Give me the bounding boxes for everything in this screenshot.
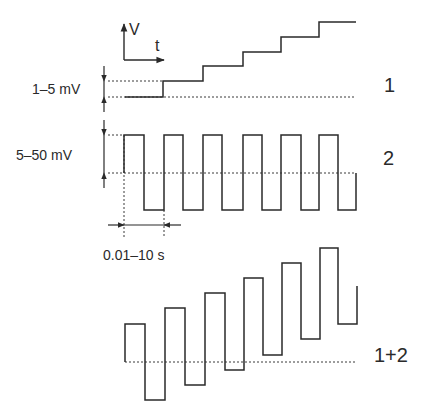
period-label: 0.01–10 s xyxy=(103,248,165,262)
signal-diagram xyxy=(0,0,434,412)
amplitude-label-1: 1–5 mV xyxy=(32,82,80,96)
axis-label-v: V xyxy=(129,22,140,38)
amplitude-label-2: 5–50 mV xyxy=(16,148,72,162)
sum-wave-trace xyxy=(125,248,357,400)
trace-label-1: 1 xyxy=(384,75,395,95)
trace-label-2: 2 xyxy=(383,148,394,168)
axis-label-t: t xyxy=(155,38,159,54)
trace-label-sum: 1+2 xyxy=(374,345,408,365)
dimension-arrows xyxy=(104,66,181,225)
